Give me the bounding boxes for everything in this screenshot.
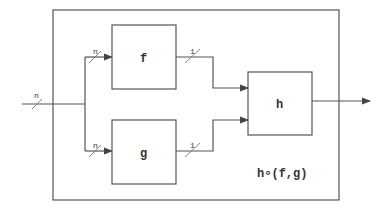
g-output-width-label: 1 xyxy=(190,141,195,150)
block-g-label: g xyxy=(140,147,147,161)
f-output-width-label: 1 xyxy=(190,47,195,56)
block-h-label: h xyxy=(276,98,283,112)
composition-diagram: n n n 1 1 f g h h∘(f,g) xyxy=(0,0,388,209)
f-input-width-label: n xyxy=(93,47,98,56)
composition-label: h∘(f,g) xyxy=(257,167,307,181)
block-f-label: f xyxy=(140,52,147,66)
g-input-width-label: n xyxy=(93,141,98,150)
input-width-label: n xyxy=(34,91,39,100)
